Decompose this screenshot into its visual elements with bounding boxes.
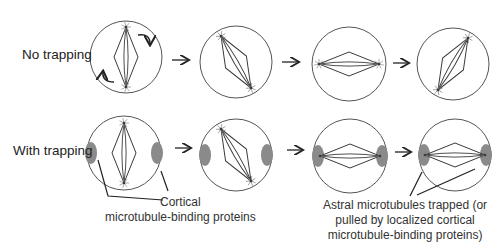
spindle-fiber: [122, 123, 124, 183]
spindle-fiber: [319, 64, 379, 66]
caption-line: Astral microtubules trapped (or: [323, 198, 487, 213]
leader-line: [161, 171, 168, 191]
spindle: [208, 119, 264, 191]
caption-line: microtubule-binding proteins): [323, 228, 487, 243]
row-with-trapping: [85, 116, 492, 193]
cortical-protein-patch: [151, 142, 163, 164]
spindle-fiber: [438, 38, 470, 91]
spindle-fiber: [126, 27, 128, 87]
row-label-no-trapping: No trapping: [22, 47, 92, 62]
spindle-fiber: [221, 35, 253, 88]
cell-membrane: [200, 26, 272, 98]
spindle-fiber: [319, 62, 379, 64]
caption-astral-microtubules: Astral microtubules trapped (or pulled b…: [323, 198, 487, 243]
spindle-fiber: [425, 155, 485, 157]
caption-cortical-proteins: Cortical microtubule-binding proteins: [105, 195, 256, 225]
cell-membrane: [87, 116, 161, 190]
row-no-trapping: [90, 21, 489, 101]
rotation-arrow-icon: [138, 35, 150, 44]
spindle-fiber: [124, 27, 126, 87]
spindle: [420, 143, 490, 167]
spindle-outline: [425, 143, 485, 167]
rotation-arrow-icon: [103, 72, 114, 82]
cell-1: [85, 116, 163, 190]
spindle: [425, 28, 481, 100]
spindle-fiber: [219, 129, 251, 182]
cell-4: [418, 119, 492, 191]
spindle: [114, 22, 138, 92]
cortical-protein-patch: [199, 144, 211, 166]
spindle-fiber: [320, 156, 380, 158]
caption-line: microtubule-binding proteins: [105, 210, 256, 225]
spindle-outline: [320, 144, 380, 168]
spindle-outline: [114, 27, 138, 87]
cell-2: [199, 119, 273, 191]
spindle-outline: [112, 123, 136, 183]
caption-line: pulled by localized cortical: [323, 213, 487, 228]
spindle-fiber: [425, 153, 485, 155]
spindle-fiber: [436, 37, 468, 90]
spindle-fiber: [221, 128, 253, 181]
caption-line: Cortical: [105, 195, 256, 210]
spindle: [314, 52, 384, 76]
spindle: [315, 144, 385, 168]
spindle: [112, 118, 136, 188]
cell-3: [312, 27, 386, 101]
spindle-fiber: [219, 36, 251, 89]
cell-2: [200, 26, 272, 98]
cell-membrane: [90, 21, 162, 93]
spindle-fiber: [124, 123, 126, 183]
cortical-protein-patch: [261, 144, 273, 166]
spindle: [208, 26, 264, 98]
spindle-fiber: [320, 154, 380, 156]
cell-membrane: [313, 119, 387, 193]
leader-line: [410, 172, 422, 196]
spindle-outline: [319, 52, 379, 76]
leader-line: [417, 169, 475, 195]
cell-membrane: [312, 27, 386, 101]
cell-membrane: [417, 28, 489, 100]
cell-1: [90, 21, 162, 93]
cell-4: [417, 28, 489, 100]
row-label-with-trapping: With trapping: [13, 143, 93, 158]
mitotic-spindle-orientation-diagram: No trapping With trapping Cortical micro…: [0, 0, 504, 244]
cell-3: [312, 119, 388, 193]
